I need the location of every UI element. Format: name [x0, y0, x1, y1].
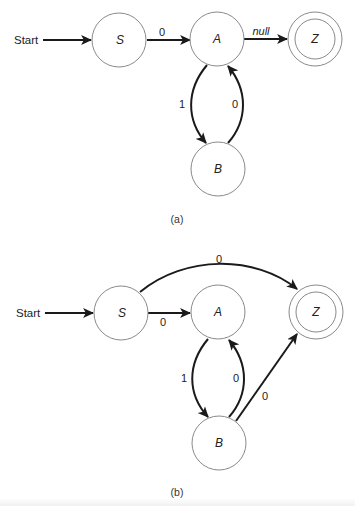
state-s: S — [92, 13, 146, 67]
edge-label-s-to-a: 0 — [159, 26, 165, 38]
state-a-label: A — [212, 32, 221, 46]
edge-label-b-to-a: 0 — [232, 98, 238, 110]
state-s: S — [94, 286, 148, 340]
state-z-label: Z — [311, 305, 320, 319]
caption-b: (b) — [171, 486, 184, 498]
state-a: A — [190, 12, 244, 66]
state-s-label: S — [118, 306, 126, 320]
state-b-label: B — [214, 162, 222, 176]
diagram-b: Start 0 0 1 0 0 S A Z — [16, 253, 343, 498]
edge-label-a-to-z: null — [252, 25, 270, 37]
edge-label-b-to-z: 0 — [262, 390, 268, 402]
state-z-accepting: Z — [289, 285, 343, 339]
state-b-label: B — [215, 436, 223, 450]
start-label: Start — [14, 34, 39, 46]
start-label: Start — [16, 307, 41, 319]
edge-label-a-to-b: 1 — [179, 98, 185, 110]
state-s-label: S — [116, 33, 124, 47]
state-z-accepting: Z — [288, 12, 342, 66]
edge-b-to-z — [236, 334, 297, 421]
caption-a: (a) — [171, 213, 184, 225]
diagram-a: Start 0 null 1 0 S A Z B — [14, 12, 342, 225]
state-a: A — [191, 285, 245, 339]
edge-label-b-to-a: 0 — [233, 372, 239, 384]
edge-label-s-to-z: 0 — [216, 253, 222, 265]
scan-artifact-band — [0, 498, 355, 506]
edge-a-to-b — [192, 339, 208, 417]
state-diagrams: Start 0 null 1 0 S A Z B — [0, 0, 355, 506]
edge-label-a-to-b: 1 — [181, 372, 187, 384]
edge-label-s-to-a: 0 — [160, 316, 166, 328]
state-z-label: Z — [310, 32, 319, 46]
state-b: B — [191, 142, 245, 196]
state-a-label: A — [213, 305, 222, 319]
edge-a-to-b — [191, 65, 207, 143]
state-b: B — [192, 416, 246, 470]
